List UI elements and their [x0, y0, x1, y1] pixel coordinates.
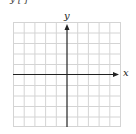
x-axis-arrow-icon	[113, 72, 119, 77]
y-axis-label: y	[64, 10, 70, 21]
y-axis-arrow-icon	[65, 24, 70, 30]
x-axis-label: x	[123, 67, 129, 78]
